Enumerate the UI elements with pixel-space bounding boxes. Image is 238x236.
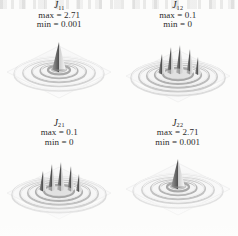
surface-plot-j12	[122, 32, 234, 104]
subplot-j11: J11 max = 2.71 min = 0.001	[0, 0, 119, 118]
subplot-caption: J11 max = 2.71 min = 0.001	[37, 0, 82, 30]
surface-plot-j22	[122, 149, 234, 221]
subplot-min-label: min = 0.001	[37, 20, 82, 30]
surface-plot-j21	[3, 149, 115, 221]
figure-canvas: J11 max = 2.71 min = 0.001	[0, 0, 237, 235]
subplot-min-label: min = 0	[41, 138, 78, 148]
subplot-j21: J21 max = 0.1 min = 0	[0, 118, 119, 236]
subplot-symbol: J12	[159, 0, 196, 10]
surface-plot-j11	[3, 32, 115, 104]
subplot-symbol: J22	[155, 118, 200, 128]
subplot-caption: J22 max = 2.71 min = 0.001	[155, 118, 200, 148]
subplot-min-label: min = 0	[159, 20, 196, 30]
subplot-symbol: J21	[41, 118, 78, 128]
subplot-caption: J21 max = 0.1 min = 0	[41, 118, 78, 148]
subplot-j22: J22 max = 2.71 min = 0.001	[119, 118, 238, 236]
subplot-grid: J11 max = 2.71 min = 0.001	[0, 0, 237, 235]
subplot-caption: J12 max = 0.1 min = 0	[159, 0, 196, 30]
subplot-min-label: min = 0.001	[155, 138, 200, 148]
subplot-symbol: J11	[37, 0, 82, 10]
subplot-j12: J12 max = 0.1 min = 0	[119, 0, 238, 118]
